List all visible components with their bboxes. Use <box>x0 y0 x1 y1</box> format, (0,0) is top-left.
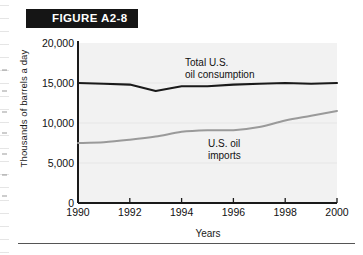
y-tick-label: 20,000 <box>16 38 74 48</box>
x-axis-title: Years <box>78 228 338 239</box>
y-tick-label: 10,000 <box>16 118 74 128</box>
annotation-total-us-oil-consumption: Total U.S. oil consumption <box>185 57 254 80</box>
page-footer-rule <box>18 243 355 244</box>
x-tick-label: 1990 <box>55 206 101 218</box>
x-tick-label: 1996 <box>210 206 256 218</box>
y-tick-label: 5,000 <box>16 158 74 168</box>
y-tick-label: 15,000 <box>16 78 74 88</box>
annotation-us-oil-imports: U.S. oil imports <box>208 138 241 161</box>
x-tick-label: 1992 <box>107 206 153 218</box>
line-chart: Thousands of barrels a day Years 05,0001… <box>0 0 363 255</box>
x-tick-label: 2000 <box>314 206 360 218</box>
x-tick-label: 1994 <box>159 206 205 218</box>
x-tick-label: 1998 <box>262 206 308 218</box>
